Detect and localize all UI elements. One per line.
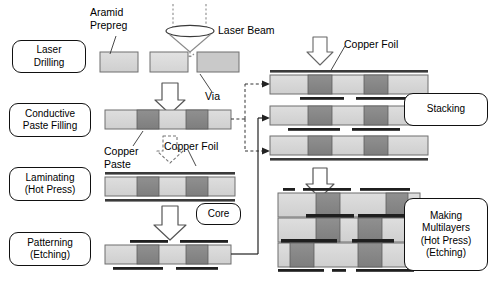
step-box-core[interactable]: Core [196,203,241,225]
arrow-down-drilling-to-paste [155,83,185,114]
annotation-aramid-prepreg: Aramid Prepreg [90,6,127,31]
step-label-line: Multilayers [422,222,470,234]
step-box-laminating[interactable]: Laminating (Hot Press) [9,167,91,201]
step-box-stacking[interactable]: Stacking [404,93,488,126]
multilayer-result [278,188,420,272]
step-label-line: Patterning [27,237,73,249]
prepreg-block-2 [150,52,188,72]
connector-solid-core-to-stack [231,118,262,254]
patterned-core [105,240,231,270]
arrow-down-laminating-to-patterning [154,206,186,240]
step-box-conductive-paste[interactable]: Conductive Paste Filling [9,103,91,137]
leader-copper-foil-top [330,46,345,72]
annotation-via: Via [205,90,220,103]
leader-aramid-prepreg [110,36,116,54]
step-box-patterning[interactable]: Patterning (Etching) [9,232,91,266]
step-label-line: (Etching) [426,247,466,259]
step-label-line: Stacking [427,103,465,115]
stack-layer-3 [270,136,428,161]
paste-filled-panel [105,110,231,129]
step-label-line: (Hot Press) [421,235,472,247]
step-label-line: Laser [36,44,61,56]
step-label-line: Paste Filling [23,120,77,132]
step-label-line: Making [430,210,462,222]
annotation-copper-paste: Copper Paste [104,145,138,170]
annotation-copper-foil-left: Copper Foil [164,140,218,153]
laser-beam-rays [173,4,206,27]
diagram-canvas: Laser Drilling Conductive Paste Filling … [0,0,495,283]
step-label-line: (Hot Press) [25,184,76,196]
annotation-laser-beam: Laser Beam [218,24,275,37]
step-label-line: Laminating [26,172,75,184]
prepreg-block-3-drilled [197,52,239,72]
leader-copper-paste [133,131,143,146]
prepreg-block-1 [100,52,138,72]
step-label-line: Core [208,208,230,220]
laser-lens-icon [166,25,214,36]
arrowhead-stack-bottom [262,148,270,155]
arrowhead-stack-middle [262,115,270,122]
stack-layer-1 [270,70,428,100]
connector-dashed-to-stack [231,84,262,151]
step-label-line: (Etching) [30,249,70,261]
arrow-down-into-stack [307,37,333,65]
step-label-line: Drilling [34,57,65,69]
step-box-laser-drilling[interactable]: Laser Drilling [12,40,86,73]
step-label-line: Conductive [25,108,75,120]
laminated-panel [105,172,235,202]
arrowhead-stack-top [262,81,270,88]
annotation-copper-foil-top: Copper Foil [344,38,398,51]
step-box-making-multilayers[interactable]: Making Multilayers (Hot Press) (Etching) [404,198,488,271]
